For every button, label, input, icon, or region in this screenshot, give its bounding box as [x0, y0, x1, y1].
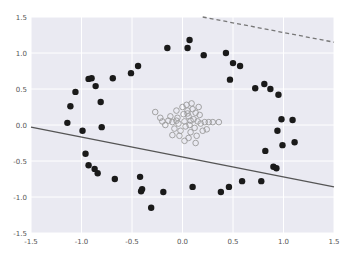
filled-circle-marker: [279, 142, 285, 148]
x-tick-label: 0.0: [177, 238, 188, 246]
filled-circle-marker: [148, 205, 154, 211]
filled-circle-marker: [262, 148, 268, 154]
filled-circle-marker: [218, 189, 224, 195]
filled-circle-marker: [252, 85, 258, 91]
filled-circle-marker: [226, 184, 232, 190]
filled-circle-marker: [88, 75, 94, 81]
filled-circle-marker: [82, 151, 88, 157]
y-axis-tick-labels: 1.51.00.50.0-0.5-1.0-1.5: [13, 14, 27, 238]
filled-circle-marker: [267, 86, 273, 92]
y-tick-label: 0.0: [16, 122, 27, 130]
x-tick-label: 1.5: [328, 238, 339, 246]
filled-circle-marker: [291, 139, 297, 145]
filled-circle-marker: [239, 178, 245, 184]
filled-circle-marker: [261, 81, 267, 87]
filled-circle-marker: [128, 70, 134, 76]
filled-circle-marker: [72, 89, 78, 95]
x-axis-tick-labels: -1.5-1.0-0.50.00.51.01.5: [24, 238, 339, 246]
filled-circle-marker: [135, 63, 141, 69]
filled-circle-marker: [137, 174, 143, 180]
filled-circle-marker: [230, 60, 236, 66]
y-tick-label: 1.5: [16, 14, 27, 22]
filled-circle-marker: [289, 117, 295, 123]
filled-circle-marker: [273, 165, 279, 171]
filled-circle-marker: [223, 50, 229, 56]
y-tick-label: -1.0: [13, 194, 27, 202]
x-tick-label: -0.5: [125, 238, 139, 246]
y-tick-label: -0.5: [13, 158, 27, 166]
filled-circle-marker: [237, 63, 243, 69]
filled-circle-marker: [139, 186, 145, 192]
filled-circle-marker: [186, 37, 192, 43]
filled-circle-marker: [227, 76, 233, 82]
filled-circle-marker: [85, 162, 91, 168]
filled-circle-marker: [160, 189, 166, 195]
filled-circle-marker: [278, 116, 284, 122]
scatter-chart: -1.5-1.0-0.50.00.51.01.5 1.51.00.50.0-0.…: [0, 0, 348, 259]
y-tick-label: 1.0: [16, 50, 27, 58]
filled-circle-marker: [64, 120, 70, 126]
x-tick-label: 1.0: [278, 238, 289, 246]
filled-circle-marker: [99, 124, 105, 130]
filled-circle-marker: [97, 99, 103, 105]
filled-circle-marker: [189, 184, 195, 190]
filled-circle-marker: [201, 52, 207, 58]
filled-circle-marker: [275, 92, 281, 98]
y-tick-label: -1.5: [13, 230, 27, 238]
filled-circle-marker: [79, 128, 85, 134]
filled-circle-marker: [112, 176, 118, 182]
x-tick-label: 0.5: [227, 238, 238, 246]
x-tick-label: -1.5: [24, 238, 38, 246]
filled-circle-marker: [110, 75, 116, 81]
filled-circle-marker: [274, 128, 280, 134]
filled-circle-marker: [184, 45, 190, 51]
filled-circle-marker: [258, 178, 264, 184]
y-tick-label: 0.5: [16, 86, 27, 94]
filled-circle-marker: [164, 45, 170, 51]
filled-circle-marker: [67, 103, 73, 109]
x-tick-label: -1.0: [75, 238, 89, 246]
filled-circle-marker: [94, 170, 100, 176]
filled-circle-marker: [92, 83, 98, 89]
